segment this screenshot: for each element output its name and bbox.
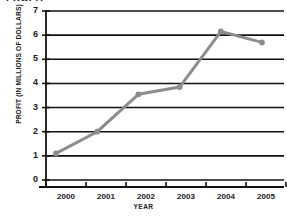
y-tick-label-3: 3 [22,102,38,112]
y-tick-label-0: 0 [22,174,38,184]
y-tick-label-7: 7 [22,5,38,15]
y-tick-label-6: 6 [22,29,38,39]
x-tick-label-2004: 2004 [206,192,246,201]
line-chart-figure: PROFIT PROFIT (IN MILLIONS OF DOLLARS) Y… [0,0,287,217]
y-tick-label-2: 2 [22,126,38,136]
data-point-2001 [94,129,100,135]
data-point-2005 [259,39,265,45]
y-tick-label-1: 1 [22,150,38,160]
y-tick-label-5: 5 [22,53,38,63]
x-axis-label: YEAR [0,203,287,210]
x-tick-label-2000: 2000 [46,192,86,201]
chart-plot-area [0,0,287,217]
x-axis-group [39,182,286,187]
x-tick-label-2002: 2002 [126,192,166,201]
y-axis-group [42,10,50,187]
y-axis-label: PROFIT (IN MILLIONS OF DOLLARS) [11,0,25,139]
x-tick-label-2005: 2005 [246,192,286,201]
gridlines-group [46,11,284,180]
data-point-2000 [53,151,59,157]
data-line [56,32,262,154]
data-point-2003 [177,84,183,90]
y-axis-label-text: PROFIT (IN MILLIONS OF DOLLARS) [15,4,22,124]
x-tick-label-2003: 2003 [166,192,206,201]
data-point-2002 [136,91,142,97]
x-tick-label-2001: 2001 [86,192,126,201]
data-series-group [53,29,265,157]
data-point-2004 [218,29,224,35]
y-tick-label-4: 4 [22,77,38,87]
